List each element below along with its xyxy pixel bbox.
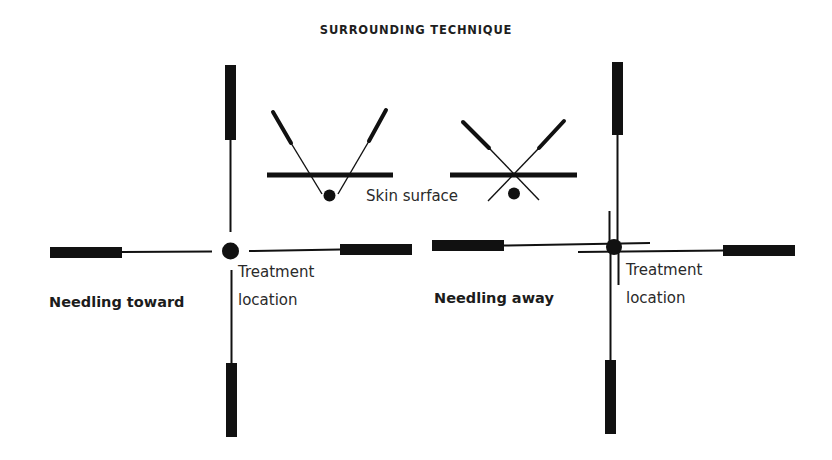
treatment-point-dot — [606, 239, 622, 255]
treatment-location-label-right-line2: location — [626, 287, 686, 309]
surrounding-technique-diagram — [0, 0, 832, 460]
treatment-location-label-left-line1: Treatment — [238, 261, 314, 283]
skin-surface-line — [267, 173, 393, 178]
treatment-point-dot — [222, 243, 239, 260]
needle-bottom — [226, 270, 237, 437]
needle-top — [612, 62, 623, 252]
needle-right — [249, 244, 412, 255]
target-dot — [324, 190, 336, 202]
inset-needling-away — [450, 121, 577, 201]
needle-left — [50, 247, 212, 258]
needling-toward-diagram — [50, 65, 412, 437]
needle-bottom — [605, 241, 616, 434]
target-dot — [508, 188, 520, 200]
needling-away-diagram — [432, 62, 795, 434]
needling-away-caption: Needling away — [434, 287, 554, 309]
needle-top — [225, 65, 236, 232]
skin-surface-label: Skin surface — [366, 185, 458, 207]
needling-toward-caption: Needling toward — [49, 291, 184, 313]
treatment-location-label-left-line2: location — [238, 289, 298, 311]
treatment-location-label-right-line1: Treatment — [626, 259, 702, 281]
